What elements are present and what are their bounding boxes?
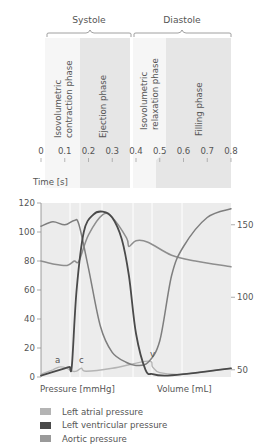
y-tick-label-right: 100 [237,292,253,302]
x-tick-label: 0.5 [153,146,167,156]
y-tick-label-right: 50 [237,365,248,375]
phase-label-filling: Filling phase [194,83,204,136]
legend-label: Left atrial pressure [62,407,143,417]
x-tick-label: 0.3 [105,146,119,156]
y-tick-label-left: 20 [24,343,35,353]
wave-label-c: c [79,355,84,365]
left-axis-label: Pressure [mmHg] [40,384,115,394]
x-tick-label: 0.1 [58,146,72,156]
y-ticks-left: 020406080100120 [19,198,41,382]
x-tick-label: 0.8 [224,146,238,156]
phase-label-contraction-2: contraction phase [64,61,74,138]
diastole-label: Diastole [163,14,201,25]
phase-label-contraction-1: Isovolumetric [53,80,63,138]
legend-swatch [40,422,51,429]
y-tick-label-left: 80 [24,256,35,266]
legend-swatch [40,408,51,415]
x-tick-label: 0 [38,146,43,156]
diastole-brace [134,30,231,37]
phase-label-relaxation-2: relaxation phase [150,58,160,130]
right-axis-label: Volume [mL] [157,384,212,394]
y-tick-label-left: 0 [30,372,35,382]
legend-item: Aortic pressure [40,432,167,446]
y-ticks-right: 50100150 [231,220,253,375]
y-tick-label-right: 150 [237,220,253,230]
legend: Left atrial pressure Left ventricular pr… [40,405,167,446]
legend-item: Left atrial pressure [40,405,167,419]
x-tick-label: 0.2 [82,146,96,156]
x-tick-label: 0.7 [200,146,214,156]
y-tick-label-left: 120 [19,198,35,208]
x-tick-label: 0.4 [129,146,143,156]
y-tick-label-left: 100 [19,227,35,237]
legend-swatch [40,435,51,442]
phase-label-ejection: Ejection phase [98,75,108,138]
x-tick-label: 0.6 [177,146,191,156]
legend-item: Left ventricular pressure [40,419,167,433]
legend-label: Left ventricular pressure [62,420,167,430]
y-tick-label-left: 40 [24,314,35,324]
phase-label-relaxation-1: Isovolumetric [139,72,149,130]
cardiac-cycle-chart: Systole Diastole Isovolumetric contracti… [0,0,268,446]
systole-brace [47,30,131,37]
phase-group-braces [47,30,231,37]
x-axis-label: Time [s] [32,177,68,187]
wave-label-v: v [150,349,155,359]
legend-label: Aortic pressure [62,434,127,444]
wave-label-a: a [55,355,60,365]
y-tick-label-left: 60 [24,285,35,295]
systole-label: Systole [72,14,106,25]
